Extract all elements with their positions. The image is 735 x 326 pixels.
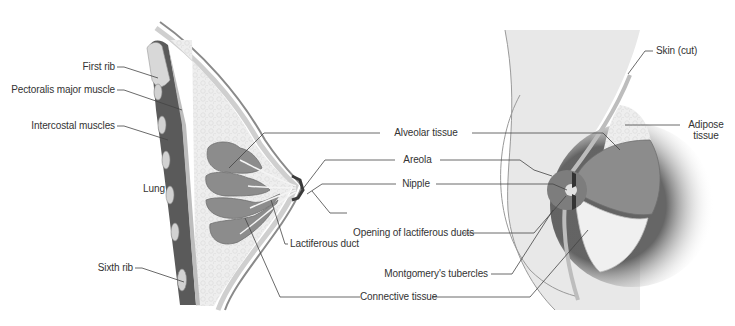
label-adipose-tissue: Adipose tissue: [682, 119, 730, 141]
breast-anatomy-diagram: First rib Pectoralis major muscle Interc…: [0, 0, 735, 326]
cutaway-view: [501, 30, 714, 310]
label-lung: Lung: [143, 183, 165, 194]
label-nipple: Nipple: [396, 178, 436, 189]
label-opening-of-lactiferous-ducts: Opening of lactiferous ducts: [353, 227, 474, 238]
label-skin-cut: Skin (cut): [656, 45, 697, 56]
label-sixth-rib: Sixth rib: [60, 262, 133, 273]
label-intercostal-muscles: Intercostal muscles: [10, 120, 115, 131]
label-first-rib: First rib: [50, 61, 115, 72]
label-adipose-line2: tissue: [682, 130, 730, 141]
label-areola: Areola: [395, 154, 440, 165]
label-lactiferous-duct: Lactiferous duct: [290, 238, 359, 249]
label-alveolar-tissue: Alveolar tissue: [380, 127, 472, 138]
label-adipose-line1: Adipose: [682, 119, 730, 130]
label-connective-tissue: Connective tissue: [360, 291, 432, 302]
sagittal-section: [147, 22, 303, 310]
label-pectoralis-major: Pectoralis major muscle: [0, 84, 115, 95]
label-montgomerys-tubercles: Montgomery's tubercles: [360, 268, 488, 279]
